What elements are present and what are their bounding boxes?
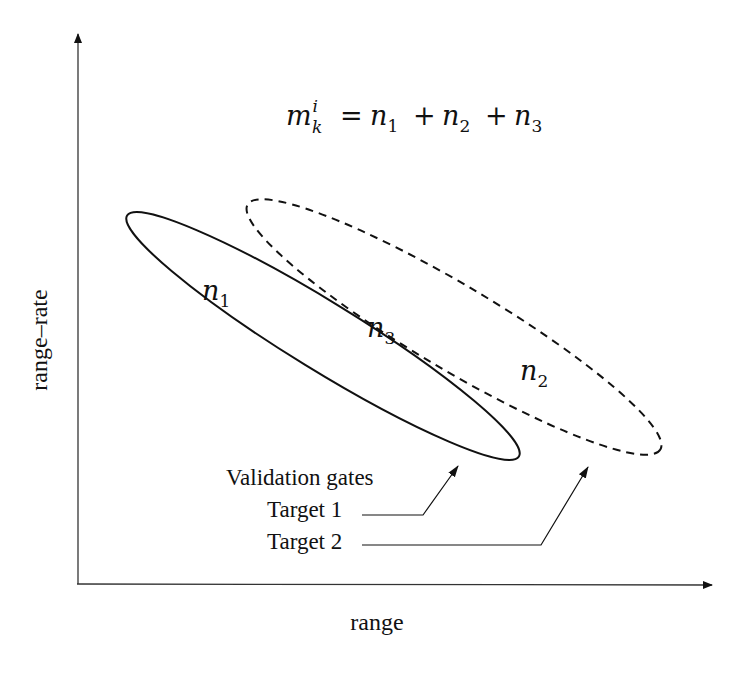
legend-target-2-label: Target 2 [267, 529, 342, 554]
region-n2-label: n2 [520, 355, 548, 391]
validation-gates-diagram: range range–rate mik = n1 + n2 + n3 n1 n… [0, 0, 740, 674]
x-axis-label: range [350, 609, 403, 635]
region-n3-label: n3 [367, 312, 395, 348]
equation: mik = n1 + n2 + n3 [286, 96, 542, 137]
target-2-leader-arrow [362, 467, 588, 545]
x-axis [77, 584, 712, 585]
region-n1-label: n1 [202, 275, 230, 311]
equation-plus-2: + [485, 100, 508, 131]
equation-equals: = [340, 100, 363, 131]
legend-title: Validation gates [226, 465, 374, 490]
target-1-leader-arrow [362, 466, 458, 515]
target-2-gate-ellipse [226, 168, 682, 485]
y-axis-label: range–rate [26, 289, 52, 390]
target-1-gate-ellipse [109, 187, 536, 486]
equation-plus-1: + [413, 100, 436, 131]
equation-term-n1: n1 [370, 100, 398, 136]
legend-target-1-label: Target 1 [267, 497, 342, 522]
equation-term-n3: n3 [514, 100, 542, 136]
equation-lhs: mik [286, 96, 322, 137]
equation-term-n2: n2 [442, 100, 470, 136]
